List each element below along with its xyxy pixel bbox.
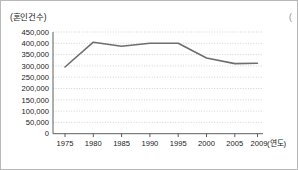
x-tick-label: 2005 [226, 139, 243, 148]
y-tick-label: 350,000 [22, 50, 49, 59]
y-tick-label: 250,000 [22, 73, 49, 82]
y-axis-tick-labels: 450,000 400,000 350,000 300,000 250,000 … [22, 28, 49, 139]
x-tick-label: 1995 [170, 139, 187, 148]
y-tick-label: 0 [45, 129, 49, 138]
x-tick-label: 2000 [198, 139, 215, 148]
y-tick-label: 150,000 [22, 96, 49, 105]
x-tick-label: 2009 [251, 139, 268, 148]
x-tick-label: 1985 [113, 139, 130, 148]
y-tick-label: 300,000 [22, 62, 49, 71]
marriage-count-series-line [65, 42, 257, 67]
y-tick-label: 50,000 [26, 118, 49, 127]
chart-screenshot: (혼인건수) ( 450,000 400,000 350,000 300,000… [0, 0, 298, 170]
gridlines [53, 32, 263, 122]
x-tick-label: 1990 [141, 139, 158, 148]
y-tick-label: 450,000 [22, 28, 49, 37]
x-tick-label: 1975 [57, 139, 74, 148]
marriage-count-line-chart: (혼인건수) ( 450,000 400,000 350,000 300,000… [1, 1, 297, 169]
x-axis-title: (연도) [267, 139, 287, 148]
y-tick-label: 200,000 [22, 84, 49, 93]
y-tick-label: 400,000 [22, 39, 49, 48]
y-tick-label: 100,000 [22, 107, 49, 116]
plot-area: 450,000 400,000 350,000 300,000 250,000 … [1, 1, 297, 169]
x-axis-tick-labels: 1975 1980 1985 1990 1995 2000 2005 2009 [57, 139, 268, 148]
x-axis-tick-marks [65, 134, 258, 137]
x-tick-label: 1980 [85, 139, 102, 148]
